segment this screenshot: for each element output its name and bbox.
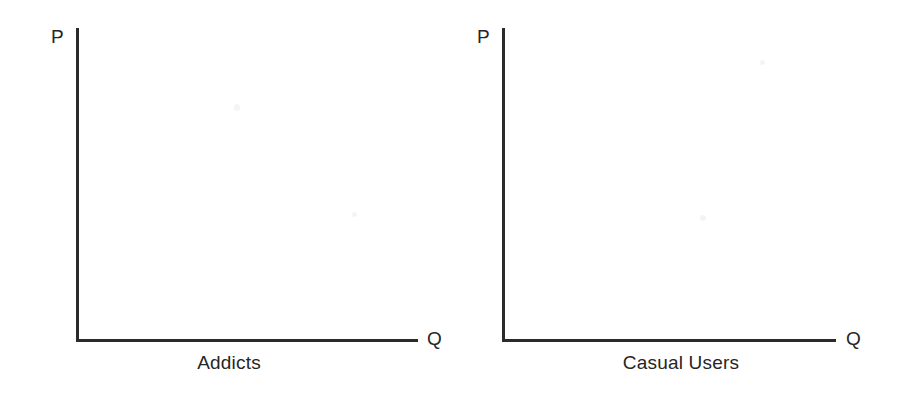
panel-caption-casual-users: Casual Users (454, 352, 908, 374)
chart-panel-casual-users: P Q Casual Users (454, 0, 908, 396)
x-axis-label: Q (846, 329, 861, 348)
x-axis-label: Q (427, 329, 442, 348)
chart-panel-addicts: P Q Addicts (0, 0, 454, 396)
figure-canvas: P Q Addicts P Q Casual Users (0, 0, 908, 396)
y-axis-line (502, 28, 505, 342)
panel-caption-addicts: Addicts (0, 352, 456, 374)
y-axis-label: P (51, 27, 64, 46)
x-axis-line (502, 339, 836, 342)
y-axis-label: P (477, 27, 490, 46)
x-axis-line (76, 339, 418, 342)
y-axis-line (76, 28, 79, 342)
